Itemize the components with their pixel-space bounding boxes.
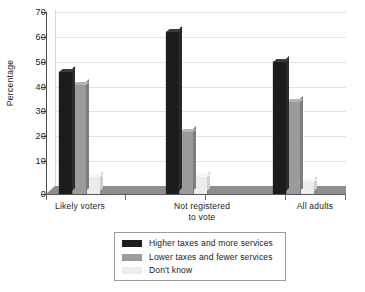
x-axis-category-label-line: to vote	[152, 212, 252, 223]
legend-item-label: Higher taxes and more services	[149, 239, 273, 248]
x-axis-category-label: Likely voters	[30, 201, 130, 212]
x-axis-category-label: All adults	[265, 201, 365, 212]
x-axis-category-label-line: Likely voters	[30, 201, 130, 212]
bar-side-face	[300, 96, 303, 191]
bar-side-face	[314, 176, 317, 191]
bar[interactable]	[166, 32, 179, 194]
bar-side-face	[72, 66, 75, 191]
x-axis-category-label: Not registeredto vote	[152, 201, 252, 222]
legend-item[interactable]: Don't know	[122, 264, 279, 278]
legend-item[interactable]: Higher taxes and more services	[122, 237, 279, 251]
bar-chart-figure: Percentage 706050403020100 Likely voters…	[0, 0, 365, 292]
bar[interactable]	[273, 62, 286, 194]
legend-swatch-icon	[122, 240, 142, 247]
bar-side-face	[86, 79, 89, 191]
x-axis-category-label-line: Not registered	[152, 201, 252, 212]
legend-swatch-icon	[122, 267, 142, 274]
legend-swatch-icon	[122, 254, 142, 261]
chart-legend: Higher taxes and more services Lower tax…	[114, 232, 286, 281]
x-axis-category-label-line: All adults	[265, 201, 365, 212]
bar[interactable]	[59, 72, 72, 194]
x-axis-tick	[205, 195, 206, 200]
bar-front-face	[59, 72, 72, 194]
bar-side-face	[179, 26, 182, 191]
legend-item-label: Lower taxes and fewer services	[149, 253, 273, 262]
legend-item-label: Don't know	[149, 266, 192, 275]
x-axis-tick	[345, 195, 346, 200]
x-axis-tick	[125, 195, 126, 200]
x-axis-tick	[285, 195, 286, 200]
bar-front-face	[166, 32, 179, 194]
legend-item[interactable]: Lower taxes and fewer services	[122, 251, 279, 265]
bar-side-face	[286, 56, 289, 191]
x-axis-tick	[46, 195, 47, 200]
bar-front-face	[273, 62, 286, 194]
bar-side-face	[193, 126, 196, 191]
